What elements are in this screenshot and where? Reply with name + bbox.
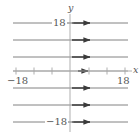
axes-lines xyxy=(13,14,132,132)
y-tick-label-minus-18: −18 xyxy=(45,117,68,127)
x-tick-label-18: 18 xyxy=(116,76,131,86)
field-arrows xyxy=(72,23,90,122)
y-axis-label: y xyxy=(68,3,73,13)
y-tick-label-18: 18 xyxy=(52,18,67,28)
x-tick-label-minus-18: −18 xyxy=(6,76,29,86)
plot-canvas xyxy=(0,0,140,139)
field-lines xyxy=(13,23,128,122)
direction-field-figure: y x 18 −18 −18 18 xyxy=(0,0,140,139)
x-axis-label: x xyxy=(133,65,138,75)
